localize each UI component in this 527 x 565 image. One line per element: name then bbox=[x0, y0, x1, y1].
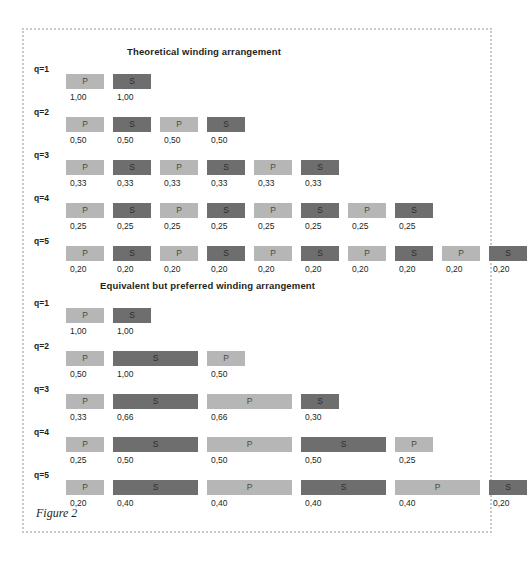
winding-block-secondary: S bbox=[113, 246, 151, 261]
winding-block-primary: P bbox=[66, 351, 104, 366]
winding-block-primary: P bbox=[160, 246, 198, 261]
winding-block-value: 1,00 bbox=[117, 369, 134, 379]
winding-block-primary: P bbox=[395, 437, 433, 452]
winding-block-primary: P bbox=[254, 246, 292, 261]
winding-block-secondary: S bbox=[301, 480, 386, 495]
q-label-preferred-4: q=5 bbox=[34, 470, 49, 480]
winding-block-value: 0,50 bbox=[211, 455, 228, 465]
winding-block-primary: P bbox=[442, 246, 480, 261]
q-label-theoretical-1: q=2 bbox=[34, 107, 49, 117]
winding-block-secondary: S bbox=[113, 74, 151, 89]
winding-block-value: 0,50 bbox=[211, 369, 228, 379]
winding-block-primary: P bbox=[254, 203, 292, 218]
winding-block-value: 1,00 bbox=[70, 326, 87, 336]
winding-block-value: 1,00 bbox=[117, 92, 134, 102]
winding-block-value: 0,20 bbox=[305, 264, 322, 274]
q-label-theoretical-3: q=4 bbox=[34, 193, 49, 203]
winding-block-value: 0,40 bbox=[399, 498, 416, 508]
winding-block-secondary: S bbox=[113, 117, 151, 132]
winding-block-value: 0,25 bbox=[70, 221, 87, 231]
winding-block-primary: P bbox=[160, 203, 198, 218]
winding-block-value: 0,25 bbox=[305, 221, 322, 231]
winding-block-value: 0,20 bbox=[399, 264, 416, 274]
winding-block-value: 0,33 bbox=[70, 412, 87, 422]
winding-block-primary: P bbox=[348, 203, 386, 218]
winding-block-value: 0,20 bbox=[352, 264, 369, 274]
winding-block-secondary: S bbox=[395, 246, 433, 261]
winding-block-primary: P bbox=[66, 437, 104, 452]
winding-block-value: 0,33 bbox=[211, 178, 228, 188]
winding-block-value: 0,20 bbox=[164, 264, 181, 274]
winding-block-primary: P bbox=[207, 394, 292, 409]
winding-block-value: 0,33 bbox=[117, 178, 134, 188]
winding-block-primary: P bbox=[66, 74, 104, 89]
winding-block-secondary: S bbox=[301, 394, 339, 409]
winding-block-secondary: S bbox=[207, 203, 245, 218]
winding-block-value: 0,25 bbox=[117, 221, 134, 231]
winding-block-value: 0,25 bbox=[399, 221, 416, 231]
winding-block-value: 0,30 bbox=[305, 412, 322, 422]
winding-block-value: 0,20 bbox=[258, 264, 275, 274]
winding-block-primary: P bbox=[207, 480, 292, 495]
winding-block-secondary: S bbox=[207, 246, 245, 261]
winding-block-value: 0,50 bbox=[164, 135, 181, 145]
winding-block-primary: P bbox=[66, 308, 104, 323]
section-title-preferred: Equivalent but preferred winding arrange… bbox=[100, 280, 315, 291]
winding-block-primary: P bbox=[254, 160, 292, 175]
winding-block-value: 0,33 bbox=[70, 178, 87, 188]
q-label-preferred-0: q=1 bbox=[34, 298, 49, 308]
winding-block-value: 0,66 bbox=[117, 412, 134, 422]
winding-block-primary: P bbox=[395, 480, 480, 495]
winding-block-secondary: S bbox=[113, 394, 198, 409]
winding-block-value: 0,40 bbox=[305, 498, 322, 508]
q-label-theoretical-4: q=5 bbox=[34, 236, 49, 246]
winding-block-primary: P bbox=[207, 437, 292, 452]
winding-block-primary: P bbox=[66, 203, 104, 218]
winding-block-value: 0,20 bbox=[446, 264, 463, 274]
q-label-theoretical-0: q=1 bbox=[34, 64, 49, 74]
winding-block-value: 0,33 bbox=[258, 178, 275, 188]
winding-block-value: 0,20 bbox=[117, 264, 134, 274]
winding-block-secondary: S bbox=[301, 246, 339, 261]
winding-block-secondary: S bbox=[395, 203, 433, 218]
winding-block-secondary: S bbox=[113, 480, 198, 495]
winding-block-primary: P bbox=[348, 246, 386, 261]
winding-block-primary: P bbox=[66, 117, 104, 132]
winding-block-value: 0,20 bbox=[493, 264, 510, 274]
winding-block-secondary: S bbox=[489, 246, 527, 261]
winding-block-value: 0,40 bbox=[211, 498, 228, 508]
winding-block-value: 0,50 bbox=[117, 135, 134, 145]
winding-block-value: 0,25 bbox=[399, 455, 416, 465]
winding-block-primary: P bbox=[66, 246, 104, 261]
winding-block-secondary: S bbox=[113, 308, 151, 323]
winding-block-secondary: S bbox=[113, 351, 198, 366]
winding-block-primary: P bbox=[66, 394, 104, 409]
winding-block-secondary: S bbox=[301, 203, 339, 218]
winding-block-secondary: S bbox=[113, 203, 151, 218]
winding-block-value: 0,20 bbox=[493, 498, 510, 508]
winding-block-value: 0,25 bbox=[352, 221, 369, 231]
winding-block-secondary: S bbox=[301, 160, 339, 175]
q-label-preferred-2: q=3 bbox=[34, 384, 49, 394]
winding-block-value: 0,66 bbox=[211, 412, 228, 422]
winding-block-value: 0,25 bbox=[258, 221, 275, 231]
winding-block-primary: P bbox=[207, 351, 245, 366]
winding-block-value: 0,25 bbox=[211, 221, 228, 231]
winding-block-value: 0,50 bbox=[70, 135, 87, 145]
winding-block-value: 0,50 bbox=[211, 135, 228, 145]
q-label-theoretical-2: q=3 bbox=[34, 150, 49, 160]
winding-block-primary: P bbox=[66, 480, 104, 495]
figure-frame: Theoretical winding arrangementq=1P1,00S… bbox=[22, 28, 492, 533]
winding-block-secondary: S bbox=[113, 437, 198, 452]
winding-block-value: 1,00 bbox=[70, 92, 87, 102]
winding-block-secondary: S bbox=[207, 117, 245, 132]
figure-canvas: Theoretical winding arrangementq=1P1,00S… bbox=[24, 30, 490, 531]
winding-block-value: 0,40 bbox=[117, 498, 134, 508]
winding-block-secondary: S bbox=[301, 437, 386, 452]
winding-block-value: 0,50 bbox=[117, 455, 134, 465]
winding-block-value: 0,25 bbox=[164, 221, 181, 231]
section-title-theoretical: Theoretical winding arrangement bbox=[127, 46, 281, 57]
winding-block-value: 0,33 bbox=[305, 178, 322, 188]
q-label-preferred-1: q=2 bbox=[34, 341, 49, 351]
winding-block-primary: P bbox=[66, 160, 104, 175]
